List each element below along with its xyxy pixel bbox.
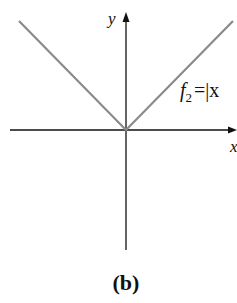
- function-subscript: 2: [186, 90, 193, 105]
- function-label: f2=|x: [180, 79, 219, 105]
- figure-caption: (b): [0, 270, 237, 296]
- abs-function-plot: y x f2=|x: [0, 0, 237, 303]
- x-axis-arrow-icon: [228, 127, 237, 134]
- x-axis-label: x: [229, 137, 237, 156]
- y-axis-arrow-icon: [123, 12, 130, 22]
- y-axis-label: y: [106, 9, 116, 28]
- function-rhs: =|x: [194, 79, 219, 102]
